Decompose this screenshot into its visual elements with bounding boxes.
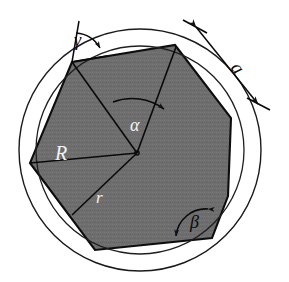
label-a: a <box>227 58 249 78</box>
label-alpha: α <box>130 115 140 135</box>
geometry-figure: R r a α β γ <box>0 0 289 282</box>
side-extension-tick-top <box>183 20 207 33</box>
label-R: R <box>54 142 67 164</box>
label-gamma: γ <box>74 30 82 50</box>
label-r: r <box>96 188 103 207</box>
geometry-diagram-canvas: R r a α β γ <box>0 0 289 282</box>
side-extension-tick-bottom <box>247 98 270 110</box>
label-beta: β <box>189 212 199 232</box>
